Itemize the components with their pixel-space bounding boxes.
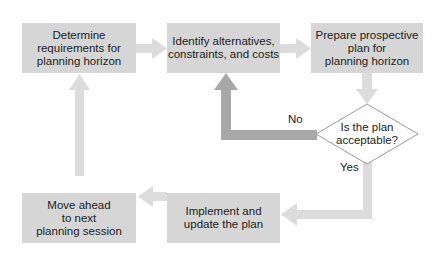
edge-label-yes: Yes	[340, 161, 359, 173]
node-prepare-plan: Prepare prospective plan for planning ho…	[311, 23, 423, 73]
node-determine-requirements: Determine requirements for planning hori…	[22, 23, 136, 73]
node-line: Implement and	[184, 205, 263, 218]
node-line: requirements for	[37, 42, 121, 55]
node-line: Move ahead	[36, 199, 122, 212]
arrow-identify-to-prepare	[280, 38, 311, 59]
node-decision-text: Is the plan acceptable?	[327, 121, 407, 147]
node-implement-plan: Implement and update the plan	[167, 193, 280, 243]
node-line: Prepare prospective	[316, 29, 419, 42]
node-line: planning horizon	[316, 55, 419, 68]
node-line: Determine	[37, 29, 121, 42]
edge-label-no: No	[288, 113, 303, 125]
node-line: plan for	[316, 42, 419, 55]
arrow-prepare-to-decision	[356, 73, 378, 104]
node-line: constraints, and costs	[168, 48, 279, 61]
node-line: to next	[36, 212, 122, 225]
arrow-no-to-identify	[214, 73, 317, 140]
node-move-ahead: Move ahead to next planning session	[22, 193, 136, 243]
node-line: planning session	[36, 225, 122, 238]
node-identify-alternatives: Identify alternatives, constraints, and …	[167, 23, 280, 73]
node-line: Is the plan	[327, 121, 407, 134]
node-line: update the plan	[184, 218, 263, 231]
arrow-move-to-determine	[69, 74, 90, 176]
arrow-determine-to-identify	[136, 38, 167, 59]
arrow-implement-to-move	[138, 186, 167, 207]
node-line: Identify alternatives,	[168, 35, 279, 48]
node-line: planning horizon	[37, 55, 121, 68]
node-line: acceptable?	[327, 134, 407, 147]
